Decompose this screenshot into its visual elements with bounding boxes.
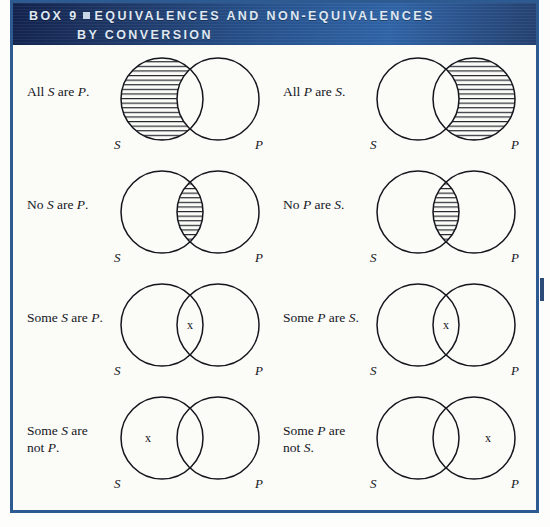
statement-some-s-are-not-p: Some S arenot P. <box>27 422 127 456</box>
term-italic: P <box>304 84 312 99</box>
diagram-grid: All S are P.SPAll P are S.SPNo S are P.S… <box>13 45 536 510</box>
diagram-cell-some-p-are-s: Some P are S.xSP <box>271 273 525 386</box>
term-italic: S <box>349 310 356 325</box>
shaded-region-left-crescent <box>115 52 265 157</box>
venn-container-some-s-are-p: x <box>115 278 265 383</box>
venn-diagram-all-p-are-s <box>371 52 521 157</box>
circle-label-right-all-s-are-p: P <box>255 137 263 153</box>
filled-square-bullet-icon <box>83 12 90 19</box>
circle-label-right-some-p-are-not-s: P <box>511 476 519 492</box>
header-box-label: BOX 9 <box>29 9 79 23</box>
diagram-cell-all-s-are-p: All S are P.SP <box>15 47 269 160</box>
shaded-region-intersection <box>371 165 521 270</box>
shaded-region-intersection <box>115 165 265 270</box>
diagram-cell-some-s-are-not-p: Some S arenot P.xSP <box>15 386 269 499</box>
circle-label-left-some-s-are-p: S <box>114 363 121 379</box>
page-edge-artifact <box>540 278 544 301</box>
venn-container-all-p-are-s <box>371 52 521 157</box>
circle-label-left-some-p-are-not-s: S <box>370 476 377 492</box>
venn-container-no-p-are-s <box>371 165 521 270</box>
statement-all-p-are-s: All P are S. <box>283 83 383 100</box>
diagram-cell-some-p-are-not-s: Some P arenot S.xSP <box>271 386 525 499</box>
circle-label-right-no-p-are-s: P <box>511 250 519 266</box>
term-italic: S <box>47 197 54 212</box>
right-circle-P <box>433 397 515 479</box>
venn-container-no-s-are-p <box>115 165 265 270</box>
venn-diagram-some-s-are-p: x <box>115 278 265 383</box>
term-italic: S <box>61 310 68 325</box>
term-italic: S <box>335 84 342 99</box>
circle-label-left-all-s-are-p: S <box>114 137 121 153</box>
circle-label-right-some-p-are-s: P <box>511 363 519 379</box>
header-title-line-1: EQUIVALENCES AND NON-EQUIVALENCES <box>95 9 435 23</box>
term-italic: S <box>304 440 311 455</box>
term-italic: P <box>303 197 311 212</box>
term-italic: P <box>48 440 56 455</box>
diagram-cell-some-s-are-p: Some S are P.xSP <box>15 273 269 386</box>
term-italic: P <box>91 310 99 325</box>
venn-container-some-p-are-s: x <box>371 278 521 383</box>
circle-label-right-some-s-are-p: P <box>255 363 263 379</box>
x-mark-left-crescent: x <box>145 431 151 445</box>
venn-diagram-some-s-are-not-p: x <box>115 391 265 496</box>
term-italic: S <box>61 423 68 438</box>
statement-some-p-are-s: Some P are S. <box>283 309 383 326</box>
term-italic: S <box>334 197 341 212</box>
venn-container-all-s-are-p <box>115 52 265 157</box>
circle-label-left-no-s-are-p: S <box>114 250 121 266</box>
venn-diagram-no-p-are-s <box>371 165 521 270</box>
statement-all-s-are-p: All S are P. <box>27 83 127 100</box>
circle-label-left-all-p-are-s: S <box>370 137 377 153</box>
shaded-region-right-crescent <box>371 52 521 157</box>
statement-some-s-are-p: Some S are P. <box>27 309 127 326</box>
term-italic: S <box>48 84 55 99</box>
left-circle-S <box>121 397 203 479</box>
venn-diagram-all-s-are-p <box>115 52 265 157</box>
page-root: BOX 9EQUIVALENCES AND NON-EQUIVALENCES B… <box>0 0 550 527</box>
circle-label-right-no-s-are-p: P <box>255 250 263 266</box>
x-mark-intersection: x <box>443 318 449 332</box>
diagram-cell-no-s-are-p: No S are P.SP <box>15 160 269 273</box>
box-header: BOX 9EQUIVALENCES AND NON-EQUIVALENCES B… <box>13 3 536 45</box>
circle-label-right-all-p-are-s: P <box>511 137 519 153</box>
venn-diagram-some-p-are-not-s: x <box>371 391 521 496</box>
circle-label-left-no-p-are-s: S <box>370 250 377 266</box>
term-italic: P <box>77 197 85 212</box>
left-circle-S <box>377 397 459 479</box>
statement-some-p-are-not-s: Some P arenot S. <box>283 422 383 456</box>
venn-diagram-no-s-are-p <box>115 165 265 270</box>
diagram-cell-all-p-are-s: All P are S.SP <box>271 47 525 160</box>
header-title-line-2: BY CONVERSION <box>77 28 213 42</box>
venn-container-some-p-are-not-s: x <box>371 391 521 496</box>
circle-label-left-some-s-are-not-p: S <box>114 476 121 492</box>
term-italic: P <box>317 423 325 438</box>
statement-no-p-are-s: No P are S. <box>283 196 383 213</box>
right-circle-P <box>177 397 259 479</box>
diagram-cell-no-p-are-s: No P are S.SP <box>271 160 525 273</box>
header-line-2: BY CONVERSION <box>29 26 536 45</box>
venn-diagram-some-p-are-s: x <box>371 278 521 383</box>
term-italic: P <box>78 84 86 99</box>
circle-label-right-some-s-are-not-p: P <box>255 476 263 492</box>
circle-label-left-some-p-are-s: S <box>370 363 377 379</box>
header-line-1: BOX 9EQUIVALENCES AND NON-EQUIVALENCES <box>29 7 536 26</box>
x-mark-intersection: x <box>187 318 193 332</box>
statement-no-s-are-p: No S are P. <box>27 196 127 213</box>
venn-container-some-s-are-not-p: x <box>115 391 265 496</box>
term-italic: P <box>317 310 325 325</box>
box-frame: BOX 9EQUIVALENCES AND NON-EQUIVALENCES B… <box>10 0 539 513</box>
x-mark-right-crescent: x <box>485 431 491 445</box>
